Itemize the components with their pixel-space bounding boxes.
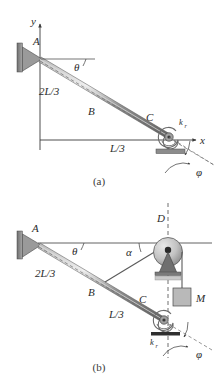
theta-arc-b — [81, 243, 84, 250]
mechanics-figure: y x A θ 2L/3 B L/3 C k r — [0, 0, 224, 375]
theta-arc-a — [83, 59, 86, 66]
pin-support-triangle-a — [23, 47, 43, 71]
mass-block-b — [173, 288, 191, 306]
x-axis-label-a: x — [199, 134, 205, 146]
pin-center-c-b — [162, 318, 165, 321]
wall-block-a — [17, 43, 23, 72]
pin-support-triangle-b — [23, 234, 42, 257]
panel-b: A θ α 2L/3 B L/3 C D M — [17, 203, 212, 374]
length-l3-label-a: L/3 — [109, 142, 125, 154]
pulley-ground-hatch-b — [155, 276, 181, 280]
point-b-label-a: B — [88, 105, 95, 117]
alpha-label-b: α — [126, 246, 132, 258]
spring-subscript-a: r — [185, 123, 188, 129]
phi-label-b: φ — [196, 348, 202, 360]
caption-a: (a) — [93, 175, 106, 188]
phi-arc-lower-a — [165, 163, 190, 173]
pulley-d-b — [154, 238, 183, 281]
spring-label-b: k — [150, 337, 154, 347]
ground-base-a — [156, 149, 185, 154]
pulley-base-b — [155, 272, 181, 276]
length-l3-label-b: L/3 — [108, 308, 124, 320]
wall-support-b — [17, 231, 41, 259]
mass-label-b: M — [195, 292, 206, 304]
point-c-label-a: C — [146, 111, 154, 123]
length-2l3-label-b: 2L/3 — [35, 267, 56, 279]
spring-subscript-b: r — [156, 343, 159, 349]
point-a-label-b: A — [31, 222, 39, 234]
ground-base-b — [151, 332, 180, 336]
length-2l3-label-a: 2L/3 — [39, 85, 60, 97]
wall-block-b — [17, 231, 23, 259]
phi-arc-lower-b — [163, 346, 188, 356]
point-b-label-b: B — [88, 286, 95, 298]
y-axis-label-a: y — [30, 15, 36, 27]
phi-label-a: φ — [196, 166, 202, 178]
point-c-label-b: C — [139, 293, 147, 305]
point-d-label-b: D — [156, 212, 165, 224]
beam-highlight-b — [39, 246, 163, 320]
beam-highlight-a — [40, 60, 169, 137]
point-a-label-a: A — [32, 35, 40, 47]
theta-label-b: θ — [72, 245, 78, 257]
alpha-arc-b — [139, 243, 141, 252]
theta-label-a: θ — [74, 61, 80, 73]
spring-label-a: k — [179, 117, 183, 127]
panel-a: y x A θ 2L/3 B L/3 C k r — [17, 15, 214, 188]
caption-b: (b) — [93, 361, 106, 374]
wall-support-a — [17, 43, 42, 72]
